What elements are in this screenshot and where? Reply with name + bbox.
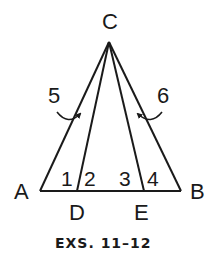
figure-caption: EXS. 11–12 <box>55 235 152 251</box>
angle-label-3: 3 <box>119 167 131 190</box>
angle-6-arrow <box>138 112 162 120</box>
geometry-diagram: C A B D E 1 2 3 4 5 6 EXS. 11–12 <box>0 0 218 258</box>
angle-label-1: 1 <box>61 167 73 190</box>
side-ca <box>40 42 109 191</box>
vertex-label-b: B <box>190 179 205 204</box>
triangle-figure: C A B D E 1 2 3 4 5 6 EXS. 11–12 <box>0 0 218 258</box>
vertex-label-d: D <box>69 200 85 225</box>
vertex-label-c: C <box>102 9 118 34</box>
vertex-label-a: A <box>14 179 29 204</box>
angle-label-6: 6 <box>157 83 169 108</box>
angle-label-2: 2 <box>84 167 96 190</box>
angle-label-5: 5 <box>48 83 60 108</box>
vertex-label-e: E <box>134 200 149 225</box>
angle-label-4: 4 <box>147 167 159 190</box>
